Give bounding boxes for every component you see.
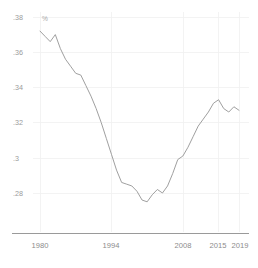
y-tick-label-034: .34 <box>13 83 23 92</box>
x-tick-label-2019: 2019 <box>232 241 249 250</box>
y-tick-label-038: .38 <box>13 13 23 22</box>
y-tick-label-028: .28 <box>13 189 23 198</box>
x-tick-label-2015: 2015 <box>210 241 227 250</box>
unit-label: % <box>42 15 48 22</box>
x-axis-tick-labels: 1980 1994 2008 2015 2019 <box>32 241 249 250</box>
x-tick-label-1994: 1994 <box>103 241 120 250</box>
y-tick-label-036: .36 <box>13 48 23 57</box>
y-axis-tick-labels: .38 .36 .34 .32 .3 .28 <box>13 13 23 198</box>
y-tick-label-032: .32 <box>13 118 23 127</box>
line-chart: .38 .36 .34 .32 .3 .28 % 1980 1994 2008 … <box>0 0 258 268</box>
data-line-labour-share <box>40 31 239 202</box>
y-tick-label-030: .3 <box>13 154 19 163</box>
x-tick-label-1980: 1980 <box>32 241 49 250</box>
chart-container: .38 .36 .34 .32 .3 .28 % 1980 1994 2008 … <box>0 0 258 268</box>
horizontal-gridlines <box>33 17 249 193</box>
x-tick-label-2008: 2008 <box>175 241 192 250</box>
